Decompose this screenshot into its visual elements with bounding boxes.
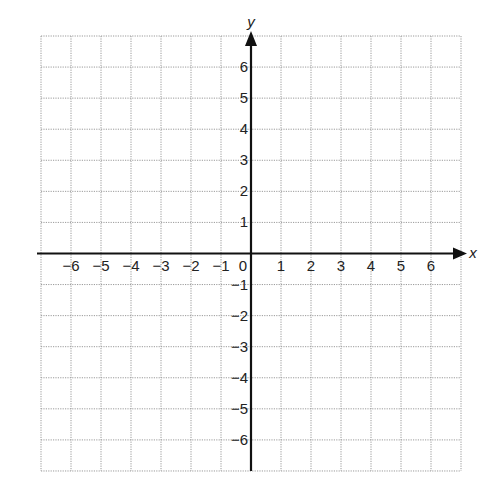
x-tick-label: 3 <box>337 257 345 274</box>
y-axis-arrow-icon <box>245 31 257 46</box>
x-tick-label: 6 <box>427 257 435 274</box>
x-axis-arrow-icon <box>453 247 467 259</box>
y-tick-label: 5 <box>240 89 248 106</box>
y-tick-label: −2 <box>231 307 248 324</box>
y-tick-label: −1 <box>231 276 248 293</box>
tick-labels: −6−5−4−3−2−11234560654321−1−2−3−4−5−6xy <box>62 13 477 448</box>
y-tick-label: −3 <box>231 338 248 355</box>
x-tick-label: −6 <box>62 257 79 274</box>
y-tick-label: 1 <box>240 213 248 230</box>
x-tick-label: 5 <box>397 257 405 274</box>
y-tick-label: −6 <box>231 431 248 448</box>
x-tick-label: 1 <box>277 257 285 274</box>
y-tick-label: 4 <box>240 120 248 137</box>
coordinate-grid: −6−5−4−3−2−11234560654321−1−2−3−4−5−6xy <box>0 0 495 489</box>
y-tick-label: 3 <box>240 151 248 168</box>
y-axis-name: y <box>246 13 256 30</box>
x-tick-label: 2 <box>307 257 315 274</box>
y-tick-label: −4 <box>231 369 248 386</box>
y-tick-label: 2 <box>240 182 248 199</box>
x-tick-label: −5 <box>92 257 109 274</box>
x-tick-label: −4 <box>122 257 139 274</box>
origin-label: 0 <box>239 257 247 274</box>
x-axis-name: x <box>468 244 477 261</box>
x-tick-label: −2 <box>182 257 199 274</box>
y-tick-label: −5 <box>231 400 248 417</box>
y-tick-label: 6 <box>240 58 248 75</box>
x-tick-label: −3 <box>152 257 169 274</box>
x-tick-label: −1 <box>212 257 229 274</box>
x-tick-label: 4 <box>367 257 375 274</box>
